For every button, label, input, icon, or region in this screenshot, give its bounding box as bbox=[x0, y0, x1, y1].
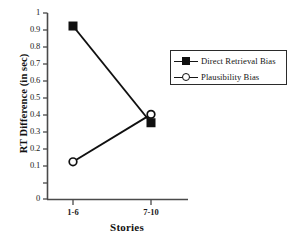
open-circle-marker-icon bbox=[171, 70, 201, 84]
legend-entry-direct-retrieval-bias: Direct Retrieval Bias bbox=[171, 53, 276, 69]
series-direct-retrieval-bias bbox=[69, 22, 156, 128]
y-tick-label: 0 bbox=[14, 194, 40, 203]
y-tick-label: 1 bbox=[14, 8, 40, 17]
legend: Direct Retrieval Bias Plausibility Bias bbox=[170, 50, 287, 85]
legend-entry-plausibility-bias: Plausibility Bias bbox=[171, 69, 259, 85]
data-point-marker bbox=[69, 22, 78, 31]
series-line-plausibility-bias bbox=[73, 114, 151, 161]
plot-area bbox=[0, 0, 298, 240]
filled-square-marker-icon bbox=[171, 54, 201, 68]
x-tick-label: 7-10 bbox=[131, 207, 171, 217]
chart-container: 1 0.9 0.8 0.7 0.6 0.5 0.4 0.3 0.2 0.1 0 … bbox=[0, 0, 298, 240]
series-line-direct-retrieval-bias bbox=[73, 26, 151, 123]
x-axis-title: Stories bbox=[57, 221, 197, 233]
series-plausibility-bias bbox=[69, 111, 155, 166]
legend-label: Direct Retrieval Bias bbox=[201, 56, 276, 66]
x-tick-marks bbox=[73, 200, 151, 206]
x-tick-label: 1-6 bbox=[53, 207, 93, 217]
data-point-marker bbox=[69, 158, 77, 166]
data-point-marker bbox=[147, 111, 155, 119]
data-point-marker bbox=[147, 118, 156, 127]
legend-label: Plausibility Bias bbox=[201, 72, 259, 82]
y-axis-title: RT Difference (in sec) bbox=[18, 29, 29, 179]
